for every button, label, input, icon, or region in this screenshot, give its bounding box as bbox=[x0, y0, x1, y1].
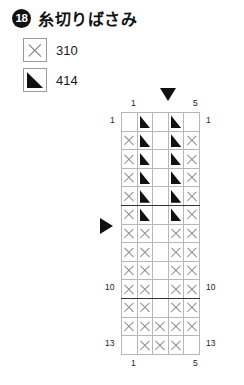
cell-cross bbox=[137, 336, 153, 355]
legend-item-label: 310 bbox=[56, 44, 78, 57]
cell-cross bbox=[184, 243, 200, 262]
cell-triangle bbox=[137, 150, 153, 169]
pattern-row bbox=[122, 168, 200, 187]
cross-icon bbox=[122, 262, 137, 280]
cell-cross bbox=[137, 298, 153, 317]
row-label-left-last: 13 bbox=[105, 339, 114, 348]
column-label-bottom-first: 1 bbox=[131, 359, 136, 368]
cell-empty bbox=[153, 298, 169, 317]
cell-cross bbox=[184, 168, 200, 187]
cell-triangle bbox=[137, 187, 153, 206]
cell-cross bbox=[122, 280, 138, 299]
page-header: 18 糸切りばさみ bbox=[12, 6, 137, 30]
cell-empty bbox=[153, 113, 169, 132]
row-label-left-first: 1 bbox=[110, 116, 115, 125]
cell-cross bbox=[137, 261, 153, 280]
cell-empty bbox=[122, 113, 138, 132]
cell-empty bbox=[184, 113, 200, 132]
cell-cross bbox=[168, 298, 184, 317]
legend: 310 414 bbox=[23, 38, 78, 92]
cell-cross bbox=[168, 317, 184, 336]
cross-icon bbox=[122, 206, 137, 224]
cell-cross bbox=[168, 224, 184, 243]
cross-icon bbox=[169, 280, 184, 298]
triangle-icon bbox=[171, 134, 182, 147]
triangle-icon bbox=[140, 190, 151, 203]
triangle-icon bbox=[171, 115, 182, 128]
design-number-badge: 18 bbox=[12, 9, 31, 28]
page-title: 糸切りばさみ bbox=[38, 6, 137, 30]
cell-cross bbox=[184, 205, 200, 224]
cell-empty bbox=[153, 224, 169, 243]
cross-icon bbox=[184, 225, 199, 243]
row-label-right-last: 13 bbox=[206, 339, 215, 348]
cell-cross bbox=[168, 336, 184, 355]
cross-icon bbox=[138, 336, 153, 354]
pattern-row bbox=[122, 131, 200, 150]
cell-cross bbox=[168, 261, 184, 280]
pattern-chart bbox=[121, 112, 200, 355]
triangle-icon bbox=[140, 208, 151, 221]
cell-triangle bbox=[137, 205, 153, 224]
pattern-row bbox=[122, 113, 200, 132]
cross-icon bbox=[169, 299, 184, 317]
cell-cross bbox=[122, 187, 138, 206]
cross-icon bbox=[153, 336, 168, 354]
column-label-bottom-last: 5 bbox=[193, 359, 198, 368]
cross-icon bbox=[169, 318, 184, 336]
legend-swatch bbox=[23, 38, 47, 62]
cell-cross bbox=[184, 261, 200, 280]
cell-cross bbox=[153, 317, 169, 336]
cross-icon bbox=[122, 243, 137, 261]
cross-icon bbox=[122, 150, 137, 168]
pattern-row bbox=[122, 187, 200, 206]
legend-item: 310 bbox=[23, 38, 78, 62]
cross-icon bbox=[138, 262, 153, 280]
cross-icon bbox=[169, 336, 184, 354]
cell-empty bbox=[153, 131, 169, 150]
cell-cross bbox=[184, 317, 200, 336]
cell-cross bbox=[122, 224, 138, 243]
cross-icon bbox=[184, 150, 199, 168]
cell-triangle bbox=[137, 131, 153, 150]
cell-empty bbox=[122, 336, 138, 355]
row-label-right-middle: 10 bbox=[206, 283, 215, 292]
cell-cross bbox=[122, 150, 138, 169]
cross-icon bbox=[184, 280, 199, 298]
triangle-icon bbox=[171, 152, 182, 165]
cross-icon bbox=[138, 318, 153, 336]
cross-icon bbox=[122, 169, 137, 187]
pattern-row bbox=[122, 317, 200, 336]
cell-cross bbox=[137, 224, 153, 243]
cross-icon bbox=[122, 225, 137, 243]
cell-cross bbox=[168, 243, 184, 262]
down-arrow-icon bbox=[160, 88, 176, 101]
cross-icon bbox=[184, 206, 199, 224]
cross-icon bbox=[122, 187, 137, 205]
cell-empty bbox=[153, 150, 169, 169]
cross-icon bbox=[184, 243, 199, 261]
cell-triangle bbox=[168, 131, 184, 150]
pattern-row bbox=[122, 205, 200, 224]
cell-cross bbox=[122, 243, 138, 262]
cell-cross bbox=[153, 336, 169, 355]
cell-cross bbox=[122, 317, 138, 336]
cell-cross bbox=[168, 280, 184, 299]
cell-cross bbox=[184, 298, 200, 317]
triangle-icon bbox=[171, 208, 182, 221]
triangle-icon bbox=[140, 171, 151, 184]
cell-cross bbox=[184, 224, 200, 243]
cell-triangle bbox=[168, 150, 184, 169]
cross-icon bbox=[184, 187, 199, 205]
cell-empty bbox=[153, 187, 169, 206]
pattern-row bbox=[122, 150, 200, 169]
cell-cross bbox=[122, 298, 138, 317]
pattern-row bbox=[122, 298, 200, 317]
triangle-icon bbox=[171, 190, 182, 203]
column-label-top-last: 5 bbox=[193, 99, 198, 108]
triangle-icon bbox=[27, 72, 44, 89]
cross-icon bbox=[138, 299, 153, 317]
cross-icon bbox=[184, 299, 199, 317]
triangle-icon bbox=[171, 171, 182, 184]
cell-cross bbox=[137, 280, 153, 299]
